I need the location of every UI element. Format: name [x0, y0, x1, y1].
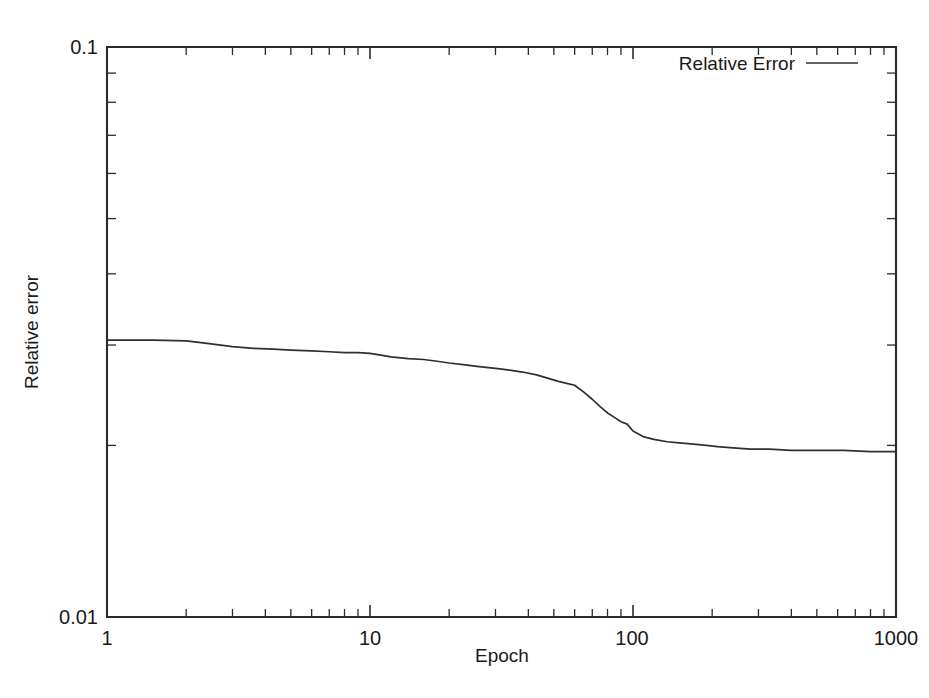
y-tick-label-bottom: 0.01	[59, 606, 98, 628]
data-line-relative-error	[107, 340, 896, 452]
x-axis-ticks	[107, 47, 896, 617]
y-axis-ticks	[107, 47, 896, 617]
y-tick-label-top: 0.1	[70, 36, 98, 58]
legend: Relative Error	[679, 53, 858, 74]
plot-frame	[107, 47, 896, 617]
legend-label-relative-error: Relative Error	[679, 53, 796, 74]
relative-error-line-chart: 0.1 0.01 1 10 100 1000 Epoch Relative er…	[0, 0, 929, 698]
chart-figure: 0.1 0.01 1 10 100 1000 Epoch Relative er…	[0, 0, 929, 698]
data-series-group	[107, 340, 896, 452]
y-axis-title: Relative error	[21, 274, 42, 389]
x-axis-title: Epoch	[475, 645, 529, 666]
x-tick-label-100: 100	[615, 627, 648, 649]
axis-tick-labels: 0.1 0.01 1 10 100 1000	[59, 36, 918, 649]
x-tick-label-10: 10	[359, 627, 381, 649]
x-tick-label-1000: 1000	[874, 627, 919, 649]
x-tick-label-1: 1	[101, 627, 112, 649]
